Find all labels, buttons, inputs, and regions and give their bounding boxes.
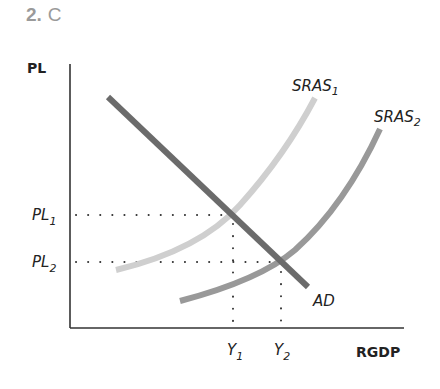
ad-as-diagram: PL RGDP SRAS1 SRAS2 AD PL1 PL2 Y1 Y2 [0, 0, 440, 389]
sras2-label: SRAS2 [374, 108, 421, 129]
y2-label: Y2 [274, 341, 290, 363]
pl2-label: PL2 [32, 253, 56, 275]
sras2-label-main: SRAS [374, 108, 414, 126]
y-axis-label: PL [27, 60, 46, 76]
pl1-label-sub: 1 [49, 215, 56, 228]
y1-label: Y1 [227, 341, 243, 363]
pl2-label-main: PL [32, 253, 49, 271]
y2-label-sub: 2 [283, 350, 290, 363]
pl1-label: PL1 [32, 206, 56, 228]
x-axis-label: RGDP [356, 344, 400, 360]
sras1-curve [116, 98, 315, 270]
pl2-label-sub: 2 [49, 262, 56, 275]
ad-label: AD [312, 292, 335, 310]
y1-label-sub: 1 [236, 350, 243, 363]
sras1-label-main: SRAS [292, 77, 332, 95]
sras1-label: SRAS1 [292, 77, 339, 98]
pl1-label-main: PL [32, 206, 49, 224]
ad-curve [108, 97, 308, 287]
sras2-label-sub: 2 [414, 116, 421, 129]
sras1-label-sub: 1 [332, 85, 339, 98]
